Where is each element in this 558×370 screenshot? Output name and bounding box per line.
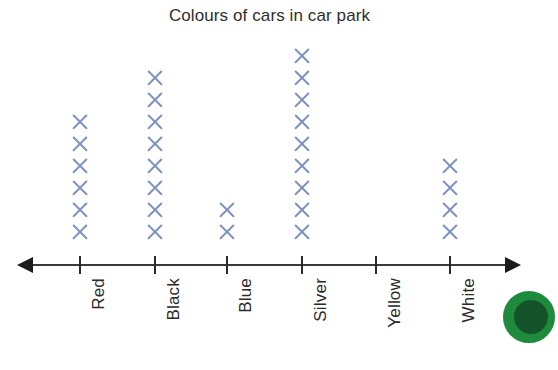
x-marker xyxy=(439,199,461,221)
axis-label-yellow: Yellow xyxy=(385,278,405,328)
x-stack-red xyxy=(65,111,95,243)
x-marker xyxy=(291,111,313,133)
x-marker xyxy=(69,111,91,133)
axis-tick-white xyxy=(449,256,451,274)
x-marker xyxy=(291,45,313,67)
x-marker xyxy=(144,155,166,177)
x-marker xyxy=(291,155,313,177)
x-axis-line xyxy=(28,264,510,266)
x-marker xyxy=(439,177,461,199)
x-marker xyxy=(144,199,166,221)
x-marker xyxy=(291,67,313,89)
x-marker xyxy=(291,177,313,199)
x-marker xyxy=(144,177,166,199)
x-marker xyxy=(144,111,166,133)
axis-label-silver: Silver xyxy=(311,278,331,322)
axis-tick-silver xyxy=(301,256,303,274)
x-marker xyxy=(144,221,166,243)
axis-tick-red xyxy=(79,256,81,274)
x-marker xyxy=(291,221,313,243)
x-stack-silver xyxy=(287,45,317,243)
x-marker xyxy=(216,199,238,221)
x-marker xyxy=(69,133,91,155)
x-marker xyxy=(69,155,91,177)
axis-tick-black xyxy=(154,256,156,274)
x-marker xyxy=(291,133,313,155)
axis-label-red: Red xyxy=(89,278,109,310)
axis-arrow-right-icon xyxy=(505,257,521,273)
x-marker xyxy=(144,133,166,155)
axis-tick-blue xyxy=(226,256,228,274)
axis-label-blue: Blue xyxy=(236,278,256,313)
x-stack-blue xyxy=(212,199,242,243)
x-marker xyxy=(291,89,313,111)
plot-area xyxy=(0,0,539,265)
axis-arrow-left-icon xyxy=(17,257,33,273)
x-marker xyxy=(144,89,166,111)
x-marker xyxy=(144,67,166,89)
x-marker xyxy=(291,199,313,221)
x-marker xyxy=(69,221,91,243)
axis-tick-yellow xyxy=(375,256,377,274)
green-circle-badge-inner xyxy=(514,300,548,334)
x-marker xyxy=(439,155,461,177)
axis-label-white: White xyxy=(459,278,479,322)
axis-label-black: Black xyxy=(164,278,184,321)
x-marker xyxy=(216,221,238,243)
x-stack-black xyxy=(140,67,170,243)
x-stack-white xyxy=(435,155,465,243)
x-marker xyxy=(439,221,461,243)
x-marker xyxy=(69,177,91,199)
x-marker xyxy=(69,199,91,221)
